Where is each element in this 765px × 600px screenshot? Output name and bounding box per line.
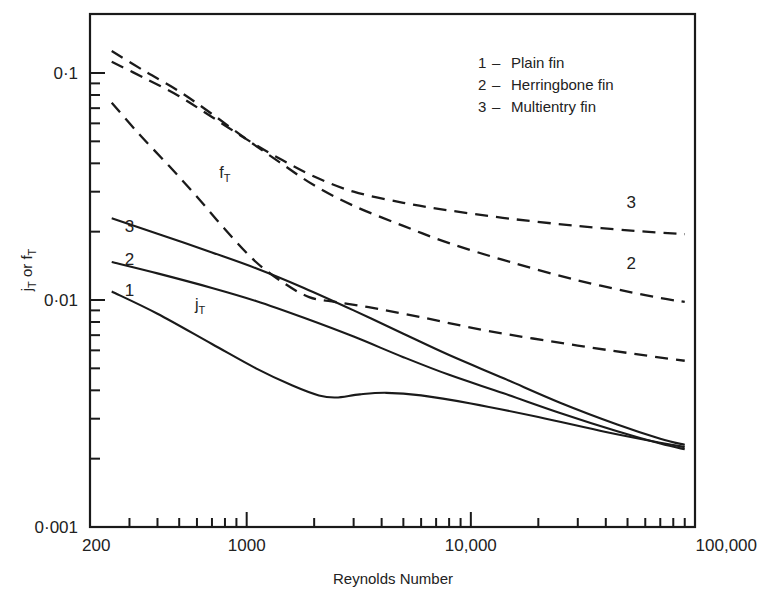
- curve-annotations: fTjT32132: [125, 164, 636, 316]
- jt-curve-1-label: 1: [125, 281, 134, 300]
- chart-canvas: 200100010,000100,000 0·10·010·001 fTjT32…: [0, 0, 765, 600]
- y-axis-ticks: [90, 73, 105, 527]
- legend-item: 1–Plain fin: [478, 54, 564, 71]
- series-curve: [112, 103, 685, 361]
- legend-label: Plain fin: [511, 54, 564, 71]
- ft-curve-3-label: 3: [627, 193, 636, 212]
- series-curve: [112, 262, 685, 449]
- data-series-group: [112, 51, 685, 449]
- friction-factor-group-label: fT: [219, 164, 230, 184]
- legend-dash: –: [492, 54, 501, 71]
- y-axis-title-sub-2: T: [26, 248, 38, 255]
- legend-label: Multientry fin: [511, 98, 596, 115]
- jt-curve-3-label: 3: [125, 217, 134, 236]
- jt-curve-2-label: 2: [125, 250, 134, 269]
- series-curve: [112, 218, 685, 445]
- chart-page: 200100010,000100,000 0·10·010·001 fTjT32…: [0, 0, 765, 600]
- legend-key: 3: [478, 98, 486, 115]
- y-axis-title-or: or: [18, 260, 35, 282]
- y-tick-label: 0·01: [44, 291, 78, 310]
- x-tick-label: 1000: [228, 536, 266, 555]
- legend-item: 2–Herringbone fin: [478, 76, 614, 93]
- chart-legend: 1–Plain fin2–Herringbone fin3–Multientry…: [478, 54, 614, 115]
- svg-text:jT or fT: jT or fT: [18, 248, 38, 292]
- y-axis-tick-labels: 0·10·010·001: [35, 64, 78, 537]
- y-tick-label: 0·001: [35, 518, 78, 537]
- colburn-factor-group-label: jT: [194, 296, 206, 316]
- legend-key: 1: [478, 54, 486, 71]
- legend-dash: –: [492, 76, 501, 93]
- x-tick-label: 100,000: [696, 536, 757, 555]
- legend-label: Herringbone fin: [511, 76, 614, 93]
- x-axis-tick-labels: 200100010,000100,000: [82, 536, 757, 555]
- legend-item: 3–Multientry fin: [478, 98, 596, 115]
- y-tick-label: 0·1: [53, 64, 78, 83]
- x-tick-label: 200: [82, 536, 110, 555]
- legend-key: 2: [478, 76, 486, 93]
- x-tick-label: 10,000: [445, 536, 497, 555]
- y-axis-title: jT or fT: [18, 248, 38, 292]
- x-axis-ticks: [90, 512, 695, 527]
- x-axis-title: Reynolds Number: [333, 570, 453, 587]
- ft-curve-2-label: 2: [627, 254, 636, 273]
- legend-dash: –: [492, 98, 501, 115]
